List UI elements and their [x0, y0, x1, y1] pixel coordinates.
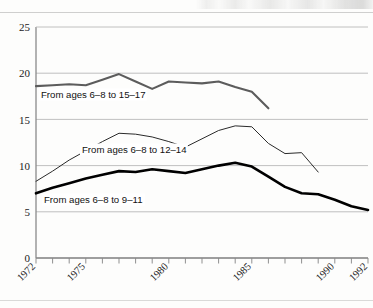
y-axis-tick-labels: 0510152025	[19, 21, 31, 264]
chart-figure: 0510152025 197219751980198519901992 From…	[0, 0, 373, 308]
y-tick-label-5: 5	[25, 206, 31, 218]
line-chart-plot: 0510152025 197219751980198519901992 From…	[0, 0, 373, 308]
x-tick-label-1985: 1985	[231, 261, 254, 284]
y-tick-label-20: 20	[19, 67, 31, 79]
series-label-bottom: From ages 6–8 to 9–11	[44, 194, 143, 205]
y-tick-label-15: 15	[19, 114, 31, 126]
series-label-top: From ages 6–8 to 15–17	[41, 89, 146, 100]
series-label-middle: From ages 6–8 to 12–14	[82, 144, 187, 155]
x-axis-ticks	[36, 258, 368, 264]
x-tick-label-1972: 1972	[15, 261, 38, 284]
x-tick-label-1990: 1990	[314, 261, 337, 284]
series-inline-labels: From ages 6–8 to 15–17From ages 6–8 to 1…	[39, 89, 188, 206]
x-tick-label-1975: 1975	[65, 261, 88, 284]
x-tick-label-1992: 1992	[347, 261, 370, 284]
x-tick-label-1980: 1980	[148, 261, 171, 284]
y-tick-label-25: 25	[19, 21, 31, 33]
plot-frame	[36, 27, 368, 258]
gridlines	[36, 73, 368, 258]
x-axis-tick-labels: 197219751980198519901992	[15, 261, 370, 284]
y-tick-label-10: 10	[19, 160, 31, 172]
